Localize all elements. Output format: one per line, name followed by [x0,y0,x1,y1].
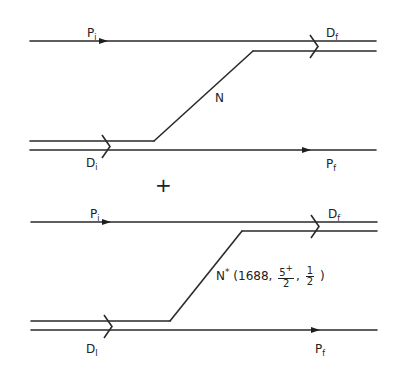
diagram-canvas [0,0,398,373]
label-deuteron-initial-bottom: DI [86,343,98,358]
label-proton-initial-bottom: Pi [90,208,99,223]
label-nucleon-exchange-top: N [215,92,224,104]
top-arrow-icon-0 [99,38,108,44]
label-deuteron-initial-top: Di [86,157,97,172]
top-chevron-icon-0 [102,135,110,158]
top-chevron-icon-1 [310,35,318,58]
top-exchange-diagonal-line [154,51,253,141]
label-deuteron-final-top: Df [326,27,338,42]
fraction-spin: 5+2 [278,263,294,289]
plus-symbol: + [155,175,172,195]
bottom-arrow-icon-0 [102,219,111,225]
bottom-chevron-icon-0 [104,315,112,338]
label-proton-final-bottom: Pf [315,343,325,358]
label-deuteron-final-bottom: Df [328,208,340,223]
bottom-chevron-icon-1 [311,215,319,238]
fraction-isospin: 12 [306,266,314,287]
label-nstar-resonance: N* (1688, 5+2, 12 ) [216,263,325,289]
label-proton-initial-top: Pi [87,27,96,42]
feynman-diagram-figure: Pi Df N Di Pf + Pi Df N* (1688, 5+2, 12 … [0,0,398,373]
bottom-arrow-icon-1 [311,327,320,333]
top-arrow-icon-1 [302,147,311,153]
label-proton-final-top: Pf [326,158,336,173]
